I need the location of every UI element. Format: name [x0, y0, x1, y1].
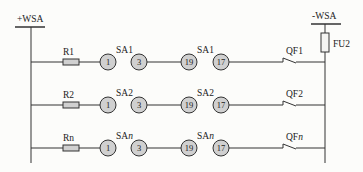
fuse-label: FU2: [333, 39, 350, 49]
branch-row: R1131917SA1SA1QF1: [31, 45, 325, 70]
circuit-diagram: +WSA -WSA FU2 R1131917SA1SA1QF1R2131917S…: [0, 0, 363, 172]
breaker-contact-icon: [283, 101, 296, 106]
resistor-label: R2: [63, 90, 74, 100]
contact-number: 19: [185, 100, 194, 110]
breaker-contact-icon: [283, 58, 296, 63]
contact-number: 17: [217, 57, 226, 67]
contact-number: 19: [185, 57, 194, 67]
breaker-label: QF2: [286, 89, 303, 99]
resistor-icon: [63, 59, 79, 65]
switch-b-label: SA2: [197, 88, 214, 98]
contact-number: 19: [185, 143, 194, 153]
contact-number: 1: [106, 57, 110, 67]
switch-b-label: SAn: [197, 131, 214, 141]
switch-a-label: SAn: [116, 131, 133, 141]
branch-rows: R1131917SA1SA1QF1R2131917SA2SA2QF2Rn1319…: [31, 45, 325, 156]
fuse-icon: [321, 33, 329, 52]
resistor-icon: [63, 145, 79, 151]
resistor-label: Rn: [63, 133, 74, 143]
contact-number: 17: [217, 100, 226, 110]
contact-number: 1: [106, 143, 110, 153]
contact-number: 3: [137, 100, 141, 110]
branch-row: Rn131917SAnSAnQFn: [31, 131, 325, 156]
positive-bus-label: +WSA: [17, 14, 44, 24]
switch-b-label: SA1: [197, 45, 214, 55]
breaker-label: QFn: [286, 132, 303, 142]
positive-bus: [15, 27, 45, 163]
breaker-contact-icon: [283, 144, 296, 149]
contact-number: 3: [137, 143, 141, 153]
contact-number: 3: [137, 57, 141, 67]
switch-a-label: SA2: [116, 88, 133, 98]
contact-number: 17: [217, 143, 226, 153]
resistor-label: R1: [63, 47, 74, 57]
resistor-icon: [63, 102, 79, 108]
negative-bus-label: -WSA: [312, 11, 336, 21]
contact-number: 1: [106, 100, 110, 110]
switch-a-label: SA1: [116, 45, 133, 55]
branch-row: R2131917SA2SA2QF2: [31, 88, 325, 113]
breaker-label: QF1: [286, 46, 303, 56]
